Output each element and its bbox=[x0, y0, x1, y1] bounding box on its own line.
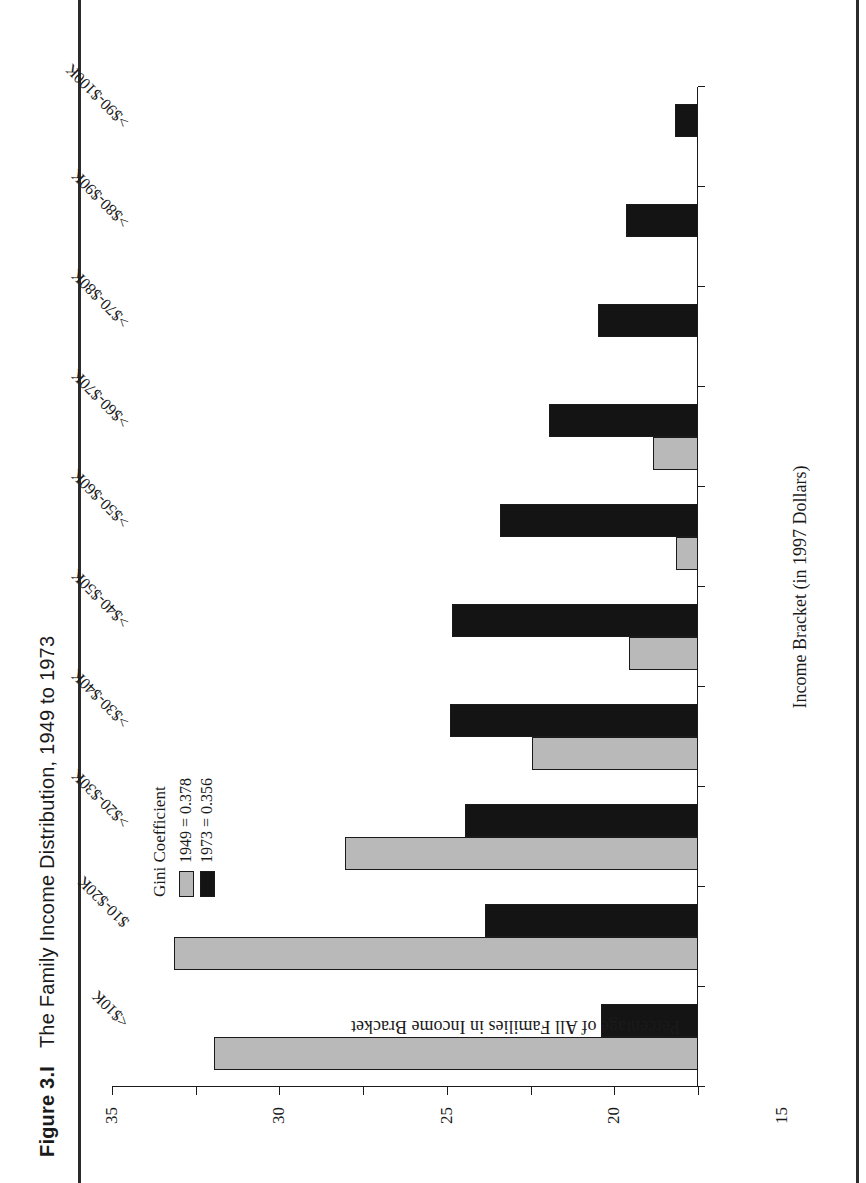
plot-area: 05101520253035 <$10K$10-$20K>$20-$30K>$3… bbox=[112, 87, 698, 1087]
legend-item-1949: 1949 = 0.378 bbox=[177, 778, 195, 897]
y-tick-label: 35 bbox=[102, 1107, 122, 1124]
bar bbox=[345, 837, 698, 870]
y-tick: 0 bbox=[698, 1087, 699, 1095]
x-tick bbox=[698, 86, 705, 87]
x-tick bbox=[698, 286, 705, 287]
legend-item-1973: 1973 = 0.356 bbox=[198, 778, 216, 897]
bar bbox=[452, 604, 698, 637]
bar bbox=[450, 704, 698, 737]
y-tick-label: 15 bbox=[772, 1107, 792, 1124]
y-tick-label: 20 bbox=[604, 1107, 624, 1124]
x-tick bbox=[698, 586, 705, 587]
chart-legend: Gini Coefficient 1949 = 0.378 1973 = 0.3… bbox=[150, 778, 216, 897]
bar bbox=[500, 504, 698, 537]
category-label: $10-$20K bbox=[74, 872, 133, 931]
y-tick: 15 bbox=[447, 1087, 448, 1095]
legend-label-1949: 1949 = 0.378 bbox=[177, 778, 195, 863]
x-tick bbox=[698, 186, 705, 187]
bar bbox=[214, 1037, 698, 1070]
category-label: >$90-$100K bbox=[62, 60, 133, 131]
x-tick bbox=[698, 486, 705, 487]
bar bbox=[676, 537, 698, 570]
y-axis-title: Percentage of All Families in Income Bra… bbox=[223, 1016, 809, 1037]
legend-swatch-1973 bbox=[200, 871, 215, 897]
bar bbox=[653, 437, 698, 470]
x-tick bbox=[698, 786, 705, 787]
y-tick-label: 25 bbox=[437, 1107, 457, 1124]
bottom-rule bbox=[856, 0, 859, 1183]
y-tick: 25 bbox=[279, 1087, 280, 1095]
x-tick bbox=[698, 386, 705, 387]
bar bbox=[485, 904, 698, 937]
y-axis-line bbox=[112, 1086, 698, 1087]
figure-number: Figure 3.I bbox=[36, 1066, 58, 1157]
y-tick: 30 bbox=[196, 1087, 197, 1095]
x-tick bbox=[698, 886, 705, 887]
category-label: <$10K bbox=[88, 987, 132, 1031]
bar bbox=[629, 637, 698, 670]
y-tick-label: 30 bbox=[269, 1107, 289, 1124]
bar bbox=[626, 204, 698, 237]
bar bbox=[465, 804, 698, 837]
x-tick bbox=[698, 986, 705, 987]
y-tick: 10 bbox=[531, 1087, 532, 1095]
bar bbox=[598, 304, 698, 337]
y-tick: 35 bbox=[112, 1087, 113, 1095]
figure-title: The Family Income Distribution, 1949 to … bbox=[36, 636, 58, 1048]
figure-page: Figure 3.IThe Family Income Distribution… bbox=[0, 0, 866, 1183]
figure-heading: Figure 3.IThe Family Income Distribution… bbox=[36, 636, 59, 1157]
y-tick: 5 bbox=[614, 1087, 615, 1095]
legend-label-1973: 1973 = 0.356 bbox=[198, 778, 216, 863]
y-tick: 20 bbox=[363, 1087, 364, 1095]
legend-swatch-1949 bbox=[179, 871, 194, 897]
bar bbox=[675, 104, 698, 137]
x-tick bbox=[698, 1086, 705, 1087]
x-axis-title: Income Bracket (in 1997 Dollars) bbox=[790, 87, 811, 1087]
bar bbox=[532, 737, 698, 770]
legend-title: Gini Coefficient bbox=[150, 778, 170, 897]
rotated-figure-stage: Figure 3.IThe Family Income Distribution… bbox=[0, 0, 866, 1183]
x-tick bbox=[698, 686, 705, 687]
bar bbox=[549, 404, 698, 437]
bar bbox=[174, 937, 698, 970]
